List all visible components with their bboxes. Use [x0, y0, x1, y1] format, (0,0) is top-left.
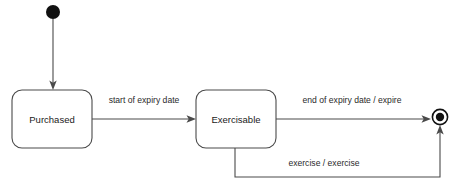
state-exercisable-label: Exercisable: [211, 114, 260, 125]
state-exercisable[interactable]: Exercisable: [196, 90, 276, 148]
initial-state-node: [46, 5, 60, 19]
transition-initial-to-purchased: [49, 19, 56, 90]
transition-label-start-of-expiry-date: start of expiry date: [109, 95, 180, 105]
state-purchased[interactable]: Purchased: [12, 90, 92, 148]
transition-label-exercise-exercise: exercise / exercise: [288, 158, 359, 168]
transition-purchased-to-exercisable: start of expiry date: [92, 95, 196, 122]
state-purchased-label: Purchased: [29, 114, 74, 125]
transition-label-end-of-expiry-date-expire: end of expiry date / expire: [303, 95, 402, 105]
final-state-node: [432, 109, 447, 124]
state-diagram: Purchased start of expiry date Exercisab…: [0, 0, 456, 190]
state-diagram-canvas: Purchased start of expiry date Exercisab…: [0, 0, 456, 190]
final-state-inner-dot: [436, 113, 444, 121]
transition-exercisable-to-final-expire: end of expiry date / expire: [276, 95, 431, 122]
